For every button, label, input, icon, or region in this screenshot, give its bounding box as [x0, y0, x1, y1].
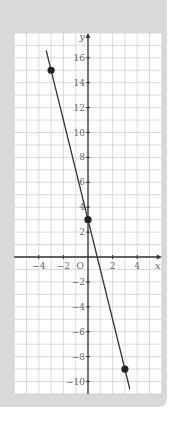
line-graph: −4−224161412108642−2−4−6−8−10Oxy — [0, 0, 172, 428]
y-tick-label: −10 — [66, 377, 85, 387]
origin-label: O — [77, 261, 84, 271]
data-point — [48, 67, 55, 74]
y-axis-label: y — [78, 31, 85, 42]
data-point — [121, 365, 128, 372]
x-axis-label: x — [155, 260, 161, 271]
y-tick-label: −6 — [72, 327, 86, 337]
y-tick-label: 12 — [74, 103, 85, 113]
x-tick-label: −2 — [57, 261, 70, 271]
y-tick-label: −2 — [72, 277, 85, 287]
y-tick-label: 14 — [74, 78, 86, 88]
y-tick-label: −4 — [72, 302, 86, 312]
x-tick-label: −4 — [32, 261, 46, 271]
data-point — [84, 216, 91, 223]
y-tick-label: −8 — [72, 352, 86, 362]
y-tick-label: 2 — [79, 227, 85, 237]
x-tick-label: 2 — [110, 261, 116, 271]
y-tick-label: 8 — [79, 152, 85, 162]
x-tick-label: 4 — [134, 261, 140, 271]
y-tick-label: 10 — [74, 128, 86, 138]
y-tick-label: 16 — [74, 53, 86, 63]
